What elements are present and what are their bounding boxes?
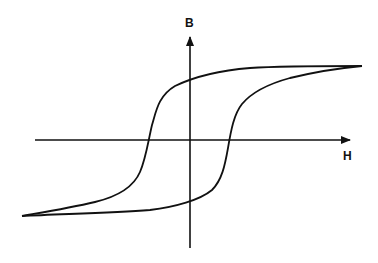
descending-branch	[22, 66, 362, 216]
hysteresis-diagram: B H	[0, 0, 378, 263]
ascending-branch	[22, 66, 362, 216]
h-axis-label: H	[343, 149, 352, 163]
b-axis-label: B	[185, 16, 194, 30]
